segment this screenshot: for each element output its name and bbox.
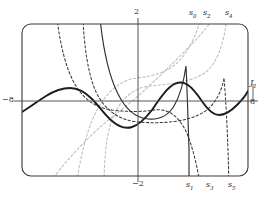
curve-s3 [57, 18, 200, 186]
plot-frame [22, 24, 248, 176]
curve-label-s2: s2 [203, 9, 211, 19]
curve-label-s4-sub: 4 [229, 13, 233, 19]
curve-label-s3: s3 [206, 181, 214, 191]
axis-label-y-max: 2 [134, 8, 139, 16]
curve-label-s5: s5 [228, 181, 236, 191]
curve-label-s5-sub: 5 [232, 185, 236, 191]
curve-label-s4: s4 [225, 9, 233, 19]
bessel-partial-sum-figure: 2 −2 −8 8 J1 s0 s2 s4 s1 s3 s5 [0, 0, 277, 200]
curve-label-s1: s1 [186, 181, 194, 191]
axis-label-y-min: −2 [132, 180, 144, 188]
curve-label-j1-sub: 1 [253, 83, 257, 89]
curve-j1 [22, 83, 248, 128]
curve-label-s1-sub: 1 [190, 185, 194, 191]
curve-label-s0-sub: 0 [193, 13, 197, 19]
curve-label-s3-sub: 3 [210, 185, 214, 191]
axis-label-x-min: −8 [2, 96, 14, 104]
curve-label-s0: s0 [189, 9, 197, 19]
plot-canvas [0, 0, 277, 200]
axis-label-x-max: 8 [250, 98, 255, 106]
curve-label-s2-sub: 2 [207, 13, 211, 19]
curve-s1 [100, 18, 189, 186]
curve-label-j1: J1 [250, 79, 257, 89]
